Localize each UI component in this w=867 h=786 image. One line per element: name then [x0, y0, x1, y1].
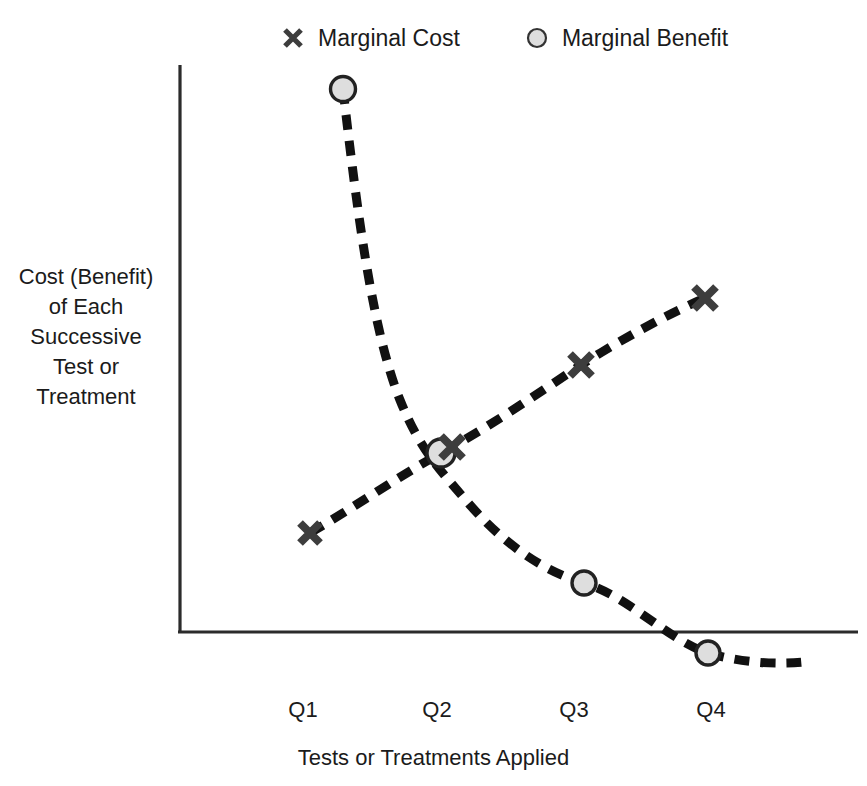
x-tick-label-q3: Q3 [534, 697, 614, 723]
y-axis-title-line-3: Successive [2, 322, 170, 352]
benefit-point-q4 [696, 641, 720, 665]
y-axis-title-line-2: of Each [2, 292, 170, 322]
x-tick-label-q4: Q4 [671, 697, 751, 723]
benefit-point-q1 [331, 77, 356, 102]
y-axis-title: Cost (Benefit) of Each Successive Test o… [2, 262, 170, 412]
x-tick-label-q2: Q2 [397, 697, 477, 723]
marginal-benefit-markers [331, 77, 721, 666]
x-axis-title: Tests or Treatments Applied [0, 745, 867, 771]
marginal-cost-curve [310, 298, 705, 533]
y-axis-title-line-4: Test or [2, 352, 170, 382]
y-axis-title-line-5: Treatment [2, 382, 170, 412]
x-tick-label-q1: Q1 [263, 697, 343, 723]
benefit-point-q3 [572, 571, 596, 595]
chart-figure: Marginal Cost Marginal Benefit [0, 0, 867, 786]
y-axis-title-line-1: Cost (Benefit) [2, 262, 170, 292]
